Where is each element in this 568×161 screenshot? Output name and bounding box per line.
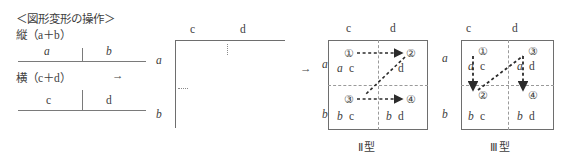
box3-cell-2-row: b	[468, 110, 474, 122]
grid-vertical-dash	[227, 44, 228, 55]
box2-col-label-c: c	[346, 22, 351, 34]
legend-arrow-icon: →	[112, 69, 124, 81]
grid-left-edge	[175, 40, 176, 128]
box3-order-2: ②	[478, 90, 488, 101]
box2-cell-3-col: c	[349, 110, 354, 122]
box2-order-4: ④	[406, 94, 416, 105]
bar-tick	[82, 90, 83, 111]
box-type-2: c d a b ① ② ③ ④ a c d b c b d Ⅱ型	[322, 0, 432, 161]
box2-order-2: ②	[406, 48, 416, 59]
box3-row-label-b: b	[442, 108, 448, 120]
box3-order-3: ③	[528, 46, 538, 57]
horizontal-segment-c: c	[46, 94, 51, 106]
box3-row-label-a: a	[442, 52, 448, 64]
box2-caption: Ⅱ型	[358, 138, 375, 154]
box3-cell-1-row: a	[468, 60, 474, 72]
box2-cell-1-row: a	[337, 62, 343, 74]
box2-horizontal-divider	[328, 85, 428, 86]
box-type-3: c d a b ① ② ③ ④ a c b c a d b d Ⅲ型	[440, 0, 552, 161]
box3-cell-3-col: d	[529, 60, 535, 72]
box2-cell-4-col: d	[398, 110, 404, 122]
box2-order-3: ③	[344, 94, 354, 105]
transform-arrow-icon: →	[300, 62, 312, 74]
box2-row-label-a: a	[322, 58, 328, 70]
middle-col-label-d: d	[240, 23, 246, 35]
box3-cell-1-col: c	[480, 60, 485, 72]
operations-legend: ＜図形変形の操作＞ 縦（a＋b） a b 横（c＋d） → c d	[0, 0, 160, 161]
grid-horizontal-dash	[178, 88, 188, 89]
box3-order-4: ④	[528, 90, 538, 101]
box2-cell-1-col: c	[349, 62, 354, 74]
middle-partial-grid: c d a b	[140, 0, 295, 161]
box2-col-label-d: d	[390, 22, 396, 34]
vertical-segment-a: a	[44, 45, 50, 57]
horizontal-split-label: 横（c＋d）	[16, 69, 71, 85]
vertical-segment-b: b	[106, 45, 112, 57]
box3-cell-4-col: d	[529, 110, 535, 122]
box3-order-1: ①	[478, 46, 488, 57]
middle-col-label-c: c	[190, 23, 195, 35]
box3-cell-2-col: c	[480, 110, 485, 122]
box3-horizontal-divider	[461, 85, 554, 86]
box3-cell-4-row: b	[517, 110, 523, 122]
vertical-split-label: 縦（a＋b）	[16, 26, 71, 42]
box3-col-label-c: c	[466, 22, 471, 34]
horizontal-segment-d: d	[106, 94, 112, 106]
box2-cell-2-col: d	[398, 62, 404, 74]
box3-caption: Ⅲ型	[490, 138, 510, 154]
middle-row-label-a: a	[156, 54, 162, 66]
box2-order-1: ①	[344, 48, 354, 59]
box3-cell-3-row: a	[517, 60, 523, 72]
middle-row-label-b: b	[156, 108, 162, 120]
box2-cell-4-row: b	[386, 110, 392, 122]
horizontal-split-bar: c d	[18, 88, 146, 114]
vertical-split-bar: a b	[18, 43, 146, 65]
grid-top-edge	[175, 40, 285, 41]
box2-row-label-b: b	[322, 108, 328, 120]
box3-col-label-d: d	[512, 22, 518, 34]
box2-cell-3-row: b	[337, 110, 343, 122]
bar-tick	[82, 48, 83, 62]
legend-heading: ＜図形変形の操作＞	[16, 10, 115, 26]
